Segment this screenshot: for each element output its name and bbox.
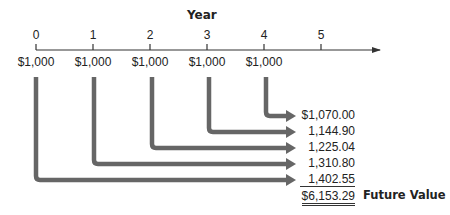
tick-label-2: 2 [147,28,154,42]
arrow-year-4 [266,77,287,116]
fv-year-3: 1,144.90 [308,124,355,138]
axis-title: Year [187,8,217,22]
fv-year-4: $1,070.00 [302,108,355,122]
tick-label-0: 0 [33,28,40,42]
arrow-heads [286,110,296,186]
tick-marks [36,44,321,50]
payment-year-0: $1,000 [18,55,55,69]
payment-year-1: $1,000 [75,55,112,69]
total-future-value: $6,153.29 [302,189,355,206]
tick-label-1: 1 [90,28,97,42]
tick-label-5: 5 [318,28,325,42]
tick-label-3: 3 [204,28,211,42]
fv-year-0: 1,402.55 [300,172,355,187]
compounding-arrows [36,77,287,180]
arrow-year-3 [209,77,287,132]
future-value-label: Future Value [363,188,446,202]
arrow-year-1 [94,77,287,164]
payment-year-4: $1,000 [246,55,283,69]
timeline-graphics [0,0,450,215]
payment-year-3: $1,000 [189,55,226,69]
tick-label-4: 4 [261,28,268,42]
payment-year-2: $1,000 [132,55,169,69]
future-value-timeline: Year 0 1 2 3 4 5 $1,000 $1,000 $1,000 $1… [0,0,450,215]
fv-year-1: 1,310.80 [308,156,355,170]
fv-year-2: 1,225.04 [308,140,355,154]
